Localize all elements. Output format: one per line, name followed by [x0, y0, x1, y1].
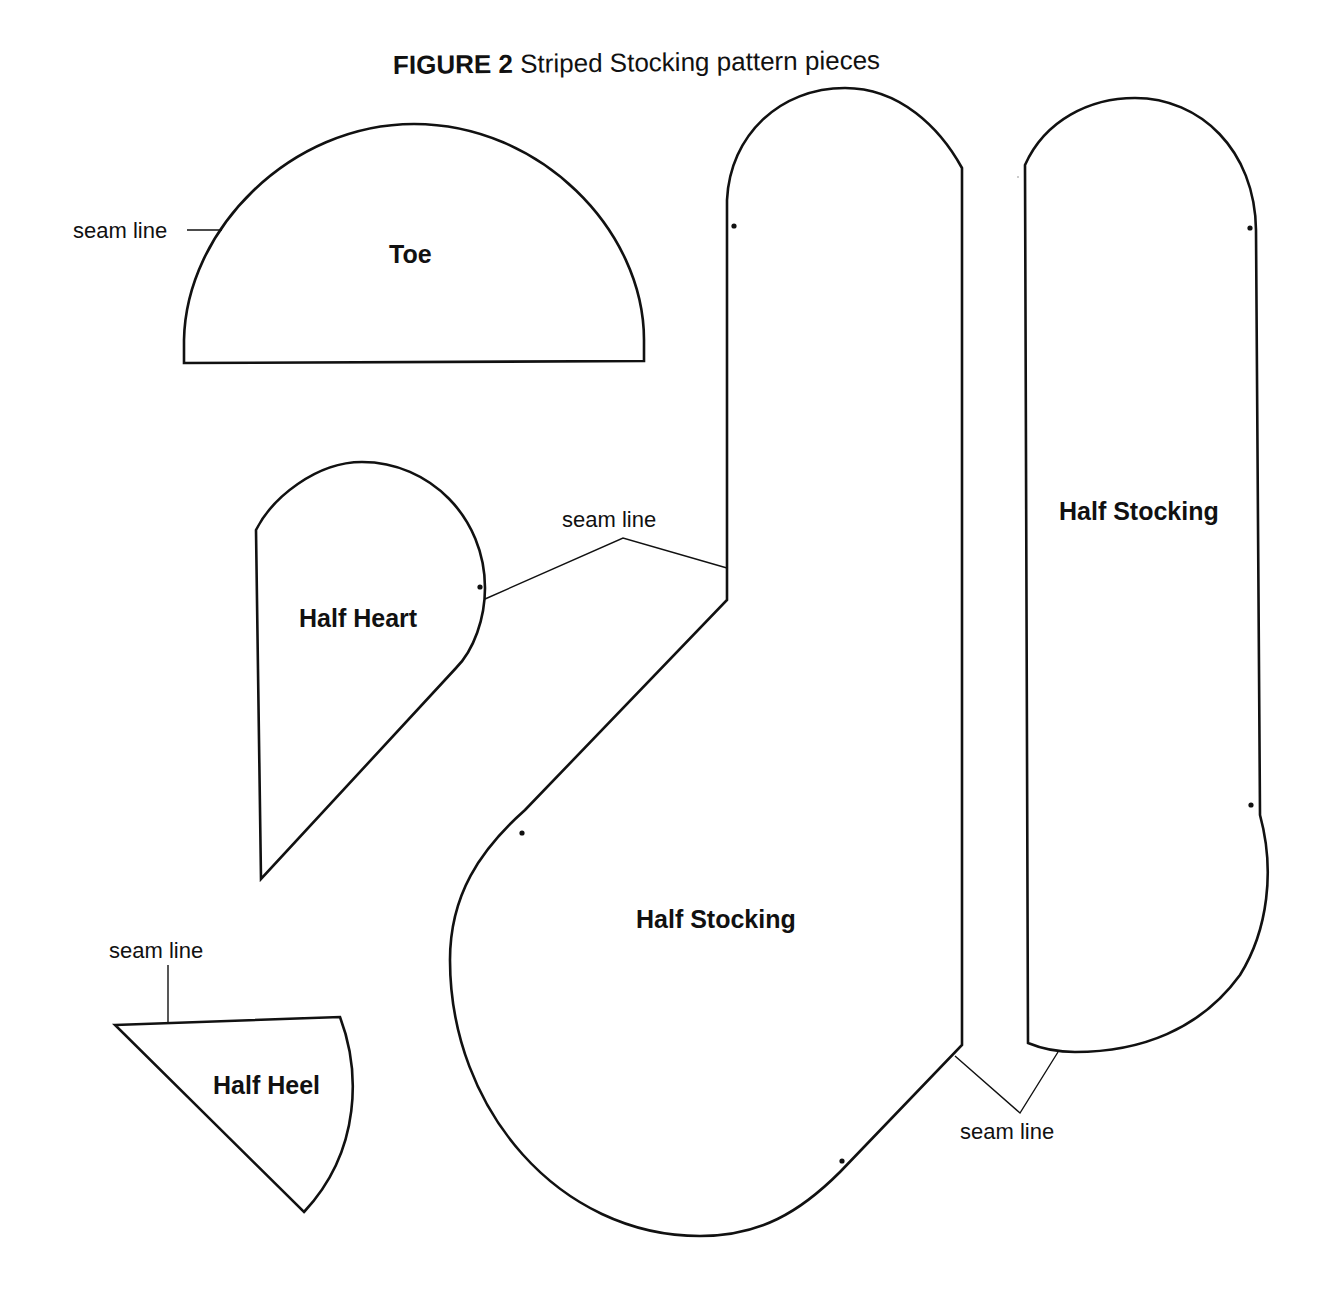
- half-stocking-foot-piece-outline: [450, 88, 962, 1236]
- stocking-foot-dot-top: [731, 223, 736, 228]
- stocking-leg-dot-bottom: [1248, 802, 1253, 807]
- stocking-bottom-seam-leader: [955, 1052, 1058, 1113]
- stray-mark: [1017, 176, 1019, 178]
- stocking-foot-dot-mid: [519, 830, 524, 835]
- heel-seam-label: seam line: [109, 938, 203, 964]
- toe-label: Toe: [389, 240, 432, 269]
- heart-stocking-seam-label: seam line: [562, 507, 656, 533]
- half-heart-label: Half Heart: [299, 604, 417, 633]
- half-heel-piece-outline: [115, 1017, 353, 1212]
- pattern-diagram: [0, 0, 1340, 1292]
- stocking-foot-dot-bottom: [839, 1158, 844, 1163]
- heart-stocking-seam-leader: [485, 538, 727, 599]
- half-heel-label: Half Heel: [213, 1071, 320, 1100]
- half-stocking-foot-label: Half Stocking: [636, 905, 796, 934]
- toe-seam-label: seam line: [73, 218, 167, 244]
- half-heart-piece-outline: [256, 462, 485, 879]
- half-stocking-leg-piece-outline: [1025, 98, 1268, 1052]
- stocking-leg-dot-top: [1247, 225, 1252, 230]
- half-stocking-leg-label: Half Stocking: [1059, 497, 1219, 526]
- stocking-bottom-seam-label: seam line: [960, 1119, 1054, 1145]
- half-heart-notch-dot: [477, 584, 482, 589]
